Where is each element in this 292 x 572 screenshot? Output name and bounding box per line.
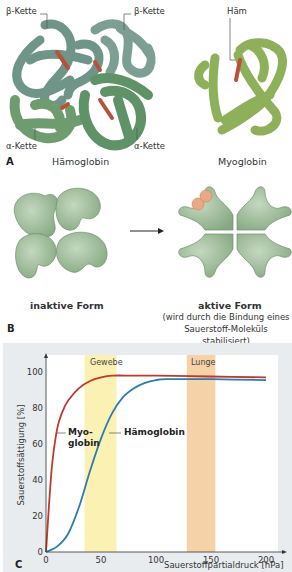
band-label-tissue: Gewebe — [90, 358, 123, 367]
band-gewebe — [85, 355, 117, 552]
band-lunge — [187, 355, 216, 552]
oxygen-saturation-chart: 050100150200020406080100 — [0, 0, 292, 572]
y-tick-label: 100 — [27, 367, 43, 377]
curve-label-myoglobin-line1: Myo- — [68, 427, 100, 438]
curve-label-hemoglobin: Hämoglobin — [124, 427, 185, 437]
band-label-lung: Lunge — [191, 358, 215, 367]
curve-label-myoglobin: Myo- globin — [68, 427, 100, 449]
panel-letter-c: C — [15, 559, 22, 570]
x-tick-label: 50 — [96, 555, 107, 565]
y-axis-label: Sauerstoffsättigung [%] — [16, 404, 26, 505]
x-tick-label: 100 — [148, 555, 164, 565]
curve-label-myoglobin-line2: globin — [68, 438, 100, 449]
x-tick-label: 0 — [43, 555, 48, 565]
plot-area — [46, 355, 278, 552]
y-tick-label: 20 — [32, 511, 43, 521]
y-tick-label: 80 — [32, 403, 43, 413]
y-tick-label: 0 — [38, 547, 43, 557]
y-tick-label: 60 — [32, 439, 43, 449]
x-axis-label: Sauerstoffpartialdruck [hPa] — [164, 560, 283, 570]
y-tick-label: 40 — [32, 475, 43, 485]
